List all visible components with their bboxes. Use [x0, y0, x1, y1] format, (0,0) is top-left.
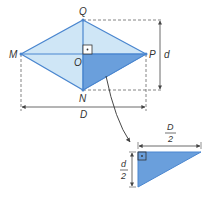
label-q: Q [79, 6, 87, 17]
label-D: D [80, 109, 87, 120]
label-half-d-num: d [121, 159, 127, 169]
label-half-D-num: D [167, 122, 174, 132]
label-d: d [164, 49, 170, 60]
label-m: M [9, 49, 18, 60]
rhombus-diagram: Q N M P O d D D 2 d 2 [0, 0, 213, 205]
label-half-d-den: 2 [120, 171, 126, 181]
curved-arrow-icon [106, 76, 130, 142]
label-n: N [79, 93, 87, 104]
right-angle-icon [83, 45, 92, 54]
label-p: P [149, 49, 156, 60]
label-half-D-den: 2 [167, 134, 173, 144]
label-o: O [74, 57, 82, 68]
half-triangle [138, 152, 201, 187]
highlighted-triangle [83, 54, 146, 90]
